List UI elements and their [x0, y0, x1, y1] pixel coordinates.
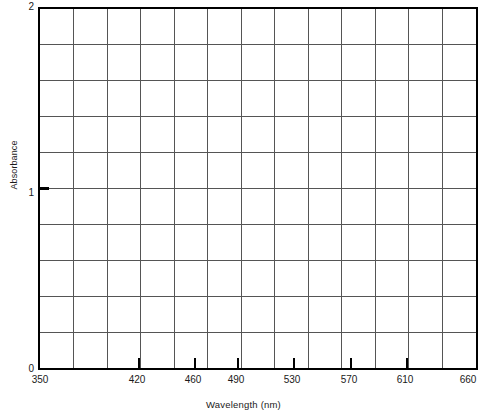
x-tick-label-490: 490 — [216, 374, 256, 386]
y-axis-title: Absorbance — [9, 105, 19, 225]
x-axis-title: Wavelength (nm) — [0, 399, 487, 411]
x-tick-label-570: 570 — [329, 374, 369, 386]
x-tick-label-460: 460 — [173, 374, 213, 386]
plot-area — [38, 7, 478, 370]
y-tick-label-0: 0 — [8, 364, 34, 374]
y-tick-label-2: 2 — [8, 2, 34, 12]
absorbance-wavelength-chart: 2 1 0 Absorbance 350 420 460 490 530 570… — [0, 0, 487, 419]
grid-lines — [40, 9, 476, 368]
x-tick-label-350: 350 — [20, 374, 60, 386]
x-axis: 350 420 460 490 530 570 610 660 — [0, 374, 487, 390]
x-tick-label-610: 610 — [385, 374, 425, 386]
x-tick-label-660: 660 — [448, 374, 487, 386]
x-tick-label-420: 420 — [117, 374, 157, 386]
x-tick-label-530: 530 — [272, 374, 312, 386]
x-tick-marks — [139, 358, 407, 368]
